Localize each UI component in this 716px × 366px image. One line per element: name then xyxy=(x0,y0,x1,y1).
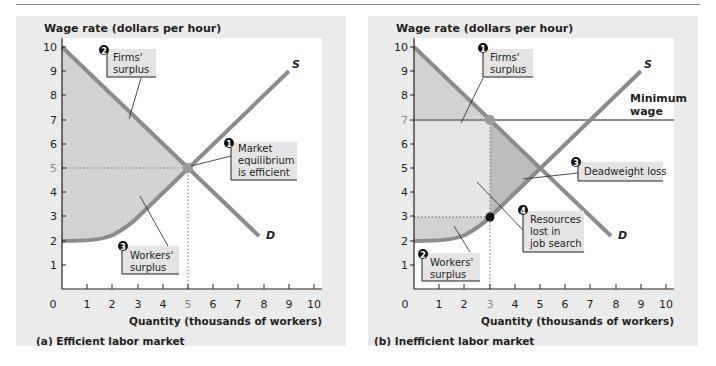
minimum-wage-label-2: wage xyxy=(630,105,663,118)
x-tick-labels: 0 1 2 3 4 5 6 7 8 9 10 xyxy=(50,298,322,311)
svg-text:2: 2 xyxy=(461,298,468,311)
svg-text:equilibrium: equilibrium xyxy=(238,155,295,166)
svg-text:surplus: surplus xyxy=(130,262,166,273)
svg-text:0: 0 xyxy=(402,298,409,311)
svg-text:9: 9 xyxy=(286,298,293,311)
svg-text:1: 1 xyxy=(480,45,486,54)
svg-text:5: 5 xyxy=(537,298,544,311)
svg-text:2: 2 xyxy=(101,47,107,56)
svg-text:8: 8 xyxy=(50,89,57,102)
svg-text:8: 8 xyxy=(401,89,408,102)
svg-text:2: 2 xyxy=(109,298,116,311)
top-rule xyxy=(16,4,700,5)
y-axis-label: Wage rate (dollars per hour) xyxy=(396,22,573,35)
svg-text:2: 2 xyxy=(401,235,408,248)
y-tick-labels: 1 2 3 4 5 6 7 8 9 10 xyxy=(43,41,57,272)
svg-text:10: 10 xyxy=(659,298,673,311)
svg-text:8: 8 xyxy=(613,298,620,311)
svg-text:Workers': Workers' xyxy=(430,257,473,268)
svg-text:1: 1 xyxy=(84,298,91,311)
x-tick-labels: 0 1 2 3 4 5 6 7 8 9 10 xyxy=(402,298,674,311)
svg-text:3: 3 xyxy=(573,159,579,168)
panel-caption: (b) Inefficient labor market xyxy=(374,335,534,346)
svg-text:1: 1 xyxy=(50,259,57,272)
svg-text:7: 7 xyxy=(235,298,242,311)
svg-text:10: 10 xyxy=(307,298,321,311)
chart-a-svg: 1 2 3 4 5 6 7 8 9 10 0 1 2 3 4 5 6 7 8 9… xyxy=(16,16,346,346)
svg-text:7: 7 xyxy=(401,114,408,127)
minimum-wage-label: Minimum xyxy=(630,92,687,105)
svg-text:6: 6 xyxy=(210,298,217,311)
svg-text:5: 5 xyxy=(185,298,192,311)
supply-label: S xyxy=(644,58,652,71)
svg-text:4: 4 xyxy=(520,207,526,216)
svg-text:3: 3 xyxy=(487,298,494,311)
svg-text:Resources: Resources xyxy=(530,214,581,225)
svg-text:10: 10 xyxy=(394,41,408,54)
svg-text:1: 1 xyxy=(226,140,232,149)
svg-text:1: 1 xyxy=(401,259,408,272)
panel-caption: (a) Efficient labor market xyxy=(36,335,185,346)
x-axis-label: Quantity (thousands of workers) xyxy=(481,315,674,327)
svg-text:8: 8 xyxy=(261,298,268,311)
equilibrium-point xyxy=(183,163,193,173)
resources-lost-area xyxy=(414,120,490,217)
svg-text:2: 2 xyxy=(420,251,426,260)
supply-price-point xyxy=(486,213,495,222)
svg-text:9: 9 xyxy=(401,65,408,78)
panel-inefficient-market: 1 2 3 4 5 6 7 8 9 10 0 1 2 3 4 5 6 7 8 9… xyxy=(368,16,698,346)
svg-text:4: 4 xyxy=(160,298,167,311)
svg-text:is efficient: is efficient xyxy=(238,167,290,178)
svg-text:5: 5 xyxy=(401,162,408,175)
svg-text:Deadweight loss: Deadweight loss xyxy=(584,166,667,177)
svg-text:2: 2 xyxy=(50,235,57,248)
svg-text:job search: job search xyxy=(529,238,582,249)
svg-text:3: 3 xyxy=(401,210,408,223)
svg-text:surplus: surplus xyxy=(430,269,466,280)
svg-text:Firms': Firms' xyxy=(113,52,142,63)
x-axis-label: Quantity (thousands of workers) xyxy=(129,315,322,327)
svg-text:lost in: lost in xyxy=(530,226,560,237)
svg-text:6: 6 xyxy=(562,298,569,311)
svg-text:10: 10 xyxy=(43,41,57,54)
svg-text:0: 0 xyxy=(50,298,57,311)
svg-text:6: 6 xyxy=(401,138,408,151)
svg-text:7: 7 xyxy=(587,298,594,311)
svg-text:Market: Market xyxy=(238,143,272,154)
y-ticks xyxy=(410,47,414,265)
svg-text:Firms': Firms' xyxy=(490,52,519,63)
y-tick-labels: 1 2 3 4 5 6 7 8 9 10 xyxy=(394,41,408,272)
svg-text:surplus: surplus xyxy=(113,64,149,75)
svg-text:6: 6 xyxy=(50,138,57,151)
y-axis-label: Wage rate (dollars per hour) xyxy=(44,22,221,35)
svg-text:9: 9 xyxy=(50,65,57,78)
svg-text:surplus: surplus xyxy=(490,64,526,75)
svg-text:9: 9 xyxy=(638,298,645,311)
svg-text:1: 1 xyxy=(436,298,443,311)
demand-label: D xyxy=(618,229,627,242)
panel-efficient-market: 1 2 3 4 5 6 7 8 9 10 0 1 2 3 4 5 6 7 8 9… xyxy=(16,16,346,346)
supply-label: S xyxy=(292,58,300,71)
demand-label: D xyxy=(266,229,275,242)
min-wage-demand-point xyxy=(485,115,495,125)
svg-text:3: 3 xyxy=(50,210,57,223)
chart-b-svg: 1 2 3 4 5 6 7 8 9 10 0 1 2 3 4 5 6 7 8 9… xyxy=(368,16,698,346)
svg-text:3: 3 xyxy=(135,298,142,311)
svg-text:7: 7 xyxy=(50,114,57,127)
svg-text:Workers': Workers' xyxy=(130,250,173,261)
svg-text:4: 4 xyxy=(50,186,57,199)
svg-text:5: 5 xyxy=(50,162,57,175)
svg-text:3: 3 xyxy=(120,243,126,252)
svg-text:4: 4 xyxy=(401,186,408,199)
svg-text:4: 4 xyxy=(512,298,519,311)
